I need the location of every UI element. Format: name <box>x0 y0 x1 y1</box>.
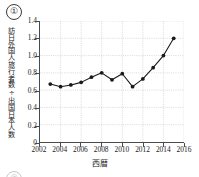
y-tick-mark <box>35 108 39 109</box>
x-tick-mark <box>184 143 185 147</box>
x-tick-mark <box>143 143 144 147</box>
x-axis-tick-labels: 20022004200620082010201220142016 <box>0 145 199 157</box>
data-point <box>69 83 73 87</box>
y-tick-mark <box>35 21 39 22</box>
chart-series-line <box>40 21 184 142</box>
line-chart: 訪日外国人旅行者数÷出国日本人数 00.20.40.60.81.01.21.4 … <box>0 0 199 177</box>
chart-figure-panel: ① 訪日外国人旅行者数÷出国日本人数 00.20.40.60.81.01.21.… <box>0 0 199 177</box>
data-point <box>90 75 94 79</box>
x-tick-mark <box>101 143 102 147</box>
y-tick-mark <box>35 38 39 39</box>
x-tick-mark <box>163 143 164 147</box>
plot-area <box>39 21 184 143</box>
y-tick-mark <box>35 56 39 57</box>
y-tick-mark <box>35 126 39 127</box>
data-point <box>120 72 124 76</box>
y-tick-mark <box>35 73 39 74</box>
data-point <box>79 80 83 84</box>
data-point <box>131 85 135 89</box>
x-tick-mark <box>80 143 81 147</box>
x-tick-mark <box>60 143 61 147</box>
x-tick-mark <box>122 143 123 147</box>
y-axis-title: 訪日外国人旅行者数÷出国日本人数 <box>5 21 17 143</box>
data-point <box>141 77 145 81</box>
data-point <box>151 66 155 70</box>
y-tick-mark <box>35 91 39 92</box>
data-point <box>172 36 176 40</box>
data-point <box>100 71 104 75</box>
x-tick-mark <box>39 143 40 147</box>
data-point <box>59 85 63 89</box>
data-point <box>162 54 166 58</box>
x-axis-title: 西暦 <box>0 157 199 168</box>
data-point <box>48 82 52 86</box>
data-point <box>110 78 114 82</box>
